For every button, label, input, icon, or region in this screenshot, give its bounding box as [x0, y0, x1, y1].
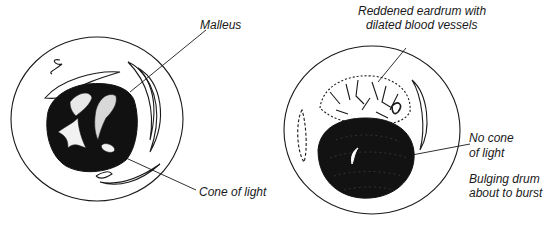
- reddened-eardrum-label-line2: dilated blood vessels: [366, 18, 477, 32]
- tympanic-membrane: [47, 84, 137, 172]
- eardrum-diagram: [0, 0, 550, 241]
- canal-fold: [412, 80, 427, 150]
- reddened-eardrum-area: [320, 76, 410, 124]
- cone-of-light-label: Cone of light: [199, 185, 266, 199]
- bulging-drum-label-line2: about to burst: [469, 186, 542, 200]
- bulging-drum: [318, 118, 414, 198]
- reddened-eardrum-label-line1: Reddened eardrum with: [358, 4, 486, 18]
- malleus-leader-line: [130, 30, 206, 92]
- no-cone-label-line1: No cone: [469, 131, 514, 145]
- cone-of-light-leader-line: [126, 158, 196, 190]
- malleus-label: Malleus: [200, 18, 241, 32]
- bulging-drum-label-line1: Bulging drum: [469, 172, 540, 186]
- vessel-curl: [392, 103, 400, 113]
- canal-fold: [96, 172, 112, 178]
- canal-fold: [51, 60, 62, 74]
- reddened-leader-line: [378, 48, 406, 82]
- dilated-blood-vessels: [330, 80, 398, 118]
- no-cone-label-line2: of light: [469, 146, 504, 160]
- canal-fold: [298, 110, 306, 162]
